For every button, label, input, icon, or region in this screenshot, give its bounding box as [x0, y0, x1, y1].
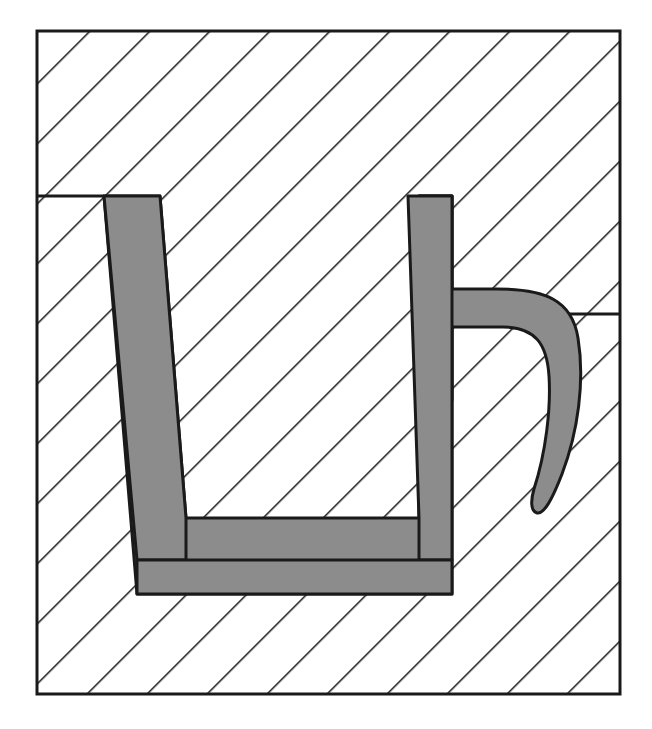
- technical-cross-section-figure: Hatched cross-section with grey U-shaped…: [0, 0, 652, 729]
- figure-page: Hatched cross-section with grey U-shaped…: [0, 0, 652, 729]
- grey-insert-bottom-bar: [137, 560, 452, 594]
